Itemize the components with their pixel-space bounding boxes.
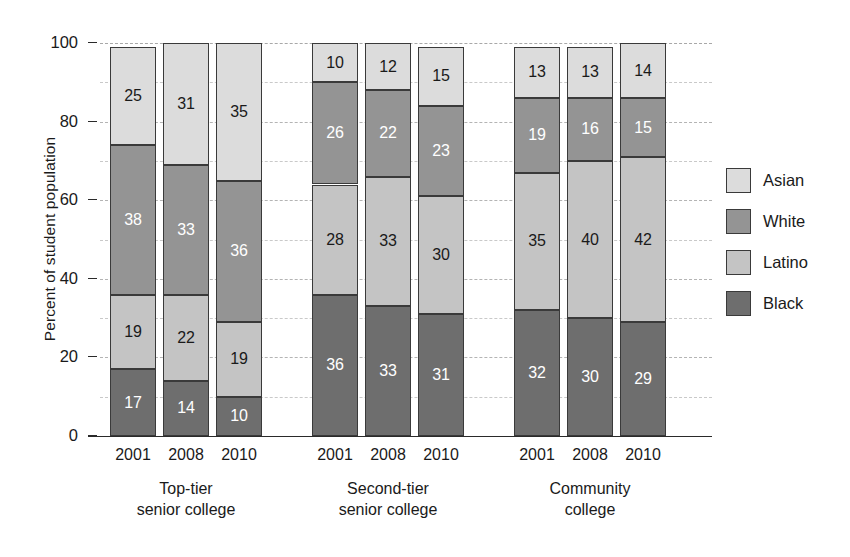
segment-value-label: 40 (581, 232, 598, 248)
x-axis-line (88, 436, 712, 437)
legend-swatch-latino (726, 250, 751, 275)
bar-segment-white[interactable]: 38 (110, 145, 156, 294)
segment-value-label: 26 (326, 125, 343, 141)
bar-segment-asian[interactable]: 12 (365, 43, 411, 90)
bar-segment-black[interactable]: 17 (110, 369, 156, 436)
bar-segment-white[interactable]: 36 (216, 181, 262, 322)
bar-segment-latino[interactable]: 35 (514, 173, 560, 311)
bar-segment-black[interactable]: 31 (418, 314, 464, 436)
bar-segment-latino[interactable]: 33 (365, 177, 411, 307)
segment-value-label: 31 (432, 367, 449, 383)
bar-segment-latino[interactable]: 28 (312, 185, 358, 295)
bar-segment-asian[interactable]: 35 (216, 43, 262, 181)
segment-value-label: 38 (124, 212, 141, 228)
segment-value-label: 32 (528, 365, 545, 381)
legend-swatch-asian (726, 168, 751, 193)
bar-segment-black[interactable]: 32 (514, 310, 560, 436)
legend-item-latino[interactable]: Latino (726, 242, 808, 283)
bar-segment-asian[interactable]: 31 (163, 43, 209, 165)
segment-value-label: 23 (432, 143, 449, 159)
legend-label: Asian (763, 171, 804, 190)
group-label-line: Second-tier (273, 478, 503, 499)
segment-value-label: 31 (177, 96, 194, 112)
segment-value-label: 42 (634, 232, 651, 248)
bar-segment-latino[interactable]: 42 (620, 157, 666, 322)
bar-segment-asian[interactable]: 13 (514, 47, 560, 98)
bar-segment-white[interactable]: 22 (365, 90, 411, 176)
bar-segment-black[interactable]: 33 (365, 306, 411, 436)
segment-value-label: 13 (528, 64, 545, 80)
stacked-bar-chart: Percent of student population 0204060801… (0, 0, 850, 557)
bar-segment-asian[interactable]: 15 (418, 47, 464, 106)
bar-second-tier-senior-college-2010[interactable]: 31302315 (418, 43, 464, 436)
segment-value-label: 19 (124, 324, 141, 340)
y-tick-mark-0 (88, 435, 97, 436)
bar-segment-latino[interactable]: 30 (418, 196, 464, 314)
bar-segment-black[interactable]: 10 (216, 397, 262, 436)
bar-segment-white[interactable]: 15 (620, 98, 666, 157)
bar-segment-white[interactable]: 19 (514, 98, 560, 173)
bar-segment-black[interactable]: 14 (163, 381, 209, 436)
legend-item-black[interactable]: Black (726, 283, 808, 324)
bar-segment-black[interactable]: 36 (312, 295, 358, 436)
bar-community-college-2008[interactable]: 30401613 (567, 43, 613, 436)
y-axis-title: Percent of student population (41, 39, 59, 439)
bar-top-tier-senior-college-2008[interactable]: 14223331 (163, 43, 209, 436)
bar-segment-asian[interactable]: 13 (567, 47, 613, 98)
bar-segment-white[interactable]: 23 (418, 106, 464, 196)
segment-value-label: 15 (634, 120, 651, 136)
bar-community-college-2001[interactable]: 32351913 (514, 43, 560, 436)
group-label-line: college (475, 499, 705, 520)
bar-second-tier-senior-college-2008[interactable]: 33332212 (365, 43, 411, 436)
bar-segment-white[interactable]: 16 (567, 98, 613, 161)
segment-value-label: 33 (177, 222, 194, 238)
legend-item-asian[interactable]: Asian (726, 160, 808, 201)
segment-value-label: 10 (230, 408, 247, 424)
y-tick-label-80: 80 (32, 112, 78, 131)
segment-value-label: 10 (326, 55, 343, 71)
y-tick-label-100: 100 (32, 33, 78, 52)
legend-label: Black (763, 294, 803, 313)
segment-value-label: 30 (581, 369, 598, 385)
bar-segment-asian[interactable]: 10 (312, 43, 358, 82)
bar-segment-black[interactable]: 30 (567, 318, 613, 436)
segment-value-label: 14 (177, 400, 194, 416)
bar-segment-latino[interactable]: 22 (163, 295, 209, 381)
chart-legend: AsianWhiteLatinoBlack (726, 160, 808, 324)
x-tick-label-2010: 2010 (608, 446, 678, 464)
group-label-line: senior college (71, 499, 301, 520)
bar-segment-white[interactable]: 26 (312, 82, 358, 184)
bar-segment-black[interactable]: 29 (620, 322, 666, 436)
segment-value-label: 35 (528, 233, 545, 249)
legend-label: Latino (763, 253, 808, 272)
bar-top-tier-senior-college-2010[interactable]: 10193635 (216, 43, 262, 436)
segment-value-label: 14 (634, 63, 651, 79)
y-tick-label-40: 40 (32, 269, 78, 288)
segment-value-label: 13 (581, 64, 598, 80)
segment-value-label: 30 (432, 247, 449, 263)
y-tick-mark-100 (88, 42, 97, 43)
bar-segment-asian[interactable]: 25 (110, 47, 156, 145)
bar-segment-latino[interactable]: 19 (216, 322, 262, 397)
segment-value-label: 36 (230, 243, 247, 259)
segment-value-label: 35 (230, 104, 247, 120)
bar-community-college-2010[interactable]: 29421514 (620, 43, 666, 436)
segment-value-label: 19 (528, 127, 545, 143)
segment-value-label: 33 (379, 233, 396, 249)
segment-value-label: 36 (326, 357, 343, 373)
segment-value-label: 22 (379, 125, 396, 141)
group-label-top-tier-senior-college: Top-tiersenior college (71, 478, 301, 520)
bar-segment-latino[interactable]: 40 (567, 161, 613, 318)
bar-segment-white[interactable]: 33 (163, 165, 209, 295)
segment-value-label: 33 (379, 363, 396, 379)
bar-segment-asian[interactable]: 14 (620, 43, 666, 98)
bar-second-tier-senior-college-2001[interactable]: 36282610 (312, 43, 358, 436)
plot-area: 0204060801001719382514223331101936353628… (100, 43, 712, 436)
y-tick-mark-60 (88, 199, 97, 200)
group-label-second-tier-senior-college: Second-tiersenior college (273, 478, 503, 520)
bar-top-tier-senior-college-2001[interactable]: 17193825 (110, 43, 156, 436)
x-tick-label-2010: 2010 (406, 446, 476, 464)
bar-segment-latino[interactable]: 19 (110, 295, 156, 370)
legend-item-white[interactable]: White (726, 201, 808, 242)
group-label-community-college: Communitycollege (475, 478, 705, 520)
